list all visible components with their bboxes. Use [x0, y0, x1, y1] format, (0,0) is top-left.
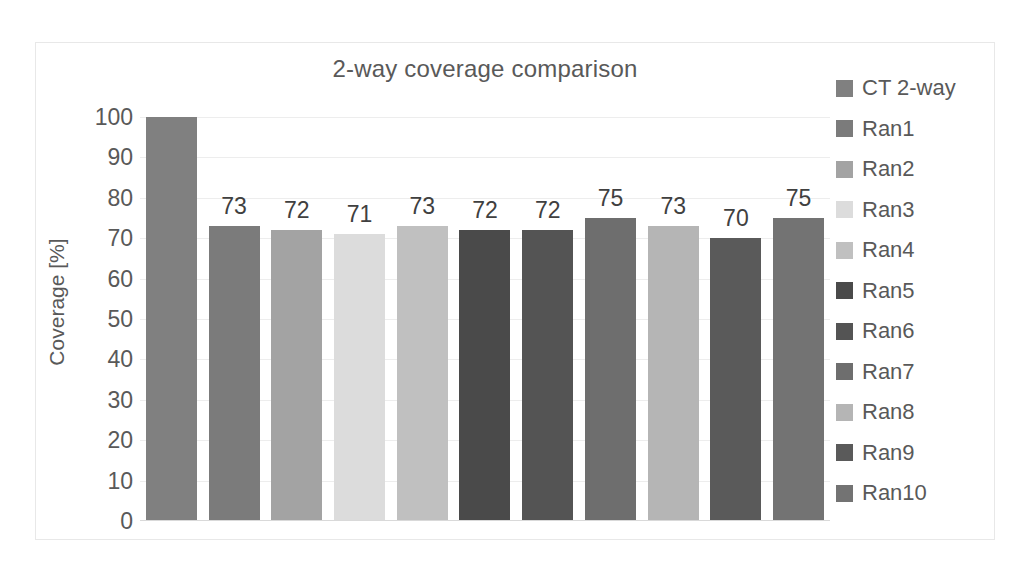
legend-swatch-icon	[836, 323, 853, 340]
bar-data-label: 75	[786, 187, 812, 210]
bar-data-label: 73	[409, 195, 435, 218]
y-axis-tick-label: 0	[63, 510, 133, 533]
legend-item[interactable]: Ran8	[836, 392, 986, 433]
legend-item[interactable]: Ran1	[836, 109, 986, 150]
y-axis-tick-label: 50	[63, 308, 133, 331]
bar-group: 73	[642, 117, 705, 521]
y-axis-tick-label: 20	[63, 429, 133, 452]
chart-title: 2-way coverage comparison	[160, 55, 810, 83]
bar-group	[140, 117, 203, 521]
bar-data-label: 72	[472, 199, 498, 222]
bar[interactable]	[271, 230, 322, 521]
bar-data-label: 73	[660, 195, 686, 218]
y-axis-tick-label: 80	[63, 186, 133, 209]
legend-swatch-icon	[836, 485, 853, 502]
legend-item[interactable]: Ran3	[836, 190, 986, 231]
legend-item-label: Ran1	[862, 118, 915, 140]
legend-item-label: Ran8	[862, 401, 915, 423]
legend-item[interactable]: Ran5	[836, 271, 986, 312]
bar-series: 73727173727275737075	[140, 117, 830, 521]
y-axis-tick-label: 70	[63, 227, 133, 250]
legend-item[interactable]: Ran6	[836, 311, 986, 352]
bar-group: 75	[579, 117, 642, 521]
chart-screenshot: 2-way coverage comparison Coverage [%] 1…	[0, 0, 1025, 577]
legend-item[interactable]: CT 2-way	[836, 68, 986, 109]
x-axis-line	[140, 520, 830, 521]
plot-area: 73727173727275737075	[140, 117, 830, 521]
bar-data-label: 70	[723, 207, 749, 230]
y-axis-tick-label: 10	[63, 469, 133, 492]
bar-group: 71	[328, 117, 391, 521]
legend-item-label: Ran4	[862, 239, 915, 261]
legend-item[interactable]: Ran2	[836, 149, 986, 190]
y-axis-tick-label: 60	[63, 267, 133, 290]
legend-item-label: Ran10	[862, 482, 927, 504]
legend-item-label: Ran9	[862, 442, 915, 464]
legend-item-label: Ran5	[862, 280, 915, 302]
legend-item[interactable]: Ran9	[836, 433, 986, 474]
bar-group: 73	[203, 117, 266, 521]
legend-swatch-icon	[836, 444, 853, 461]
legend-swatch-icon	[836, 120, 853, 137]
bar-data-label: 72	[535, 199, 561, 222]
bar[interactable]	[209, 226, 260, 521]
bar-group: 73	[391, 117, 454, 521]
y-axis-tick-label: 40	[63, 348, 133, 371]
bar[interactable]	[773, 218, 824, 521]
bar[interactable]	[459, 230, 510, 521]
bar-group: 72	[454, 117, 517, 521]
legend-swatch-icon	[836, 80, 853, 97]
legend-item[interactable]: Ran7	[836, 352, 986, 393]
y-axis-tick-labels: 1009080706050403020100	[55, 117, 133, 521]
legend-swatch-icon	[836, 363, 853, 380]
bar-group: 75	[767, 117, 830, 521]
bar-group: 72	[516, 117, 579, 521]
chart-legend: CT 2-wayRan1Ran2Ran3Ran4Ran5Ran6Ran7Ran8…	[836, 68, 986, 514]
y-axis-tick-label: 90	[63, 146, 133, 169]
bar[interactable]	[710, 238, 761, 521]
legend-item-label: Ran7	[862, 361, 915, 383]
legend-swatch-icon	[836, 201, 853, 218]
bar-data-label: 75	[598, 187, 624, 210]
bar[interactable]	[585, 218, 636, 521]
legend-item-label: CT 2-way	[862, 77, 956, 99]
legend-swatch-icon	[836, 282, 853, 299]
bar-group: 72	[265, 117, 328, 521]
bar[interactable]	[648, 226, 699, 521]
legend-item-label: Ran3	[862, 199, 915, 221]
legend-item-label: Ran2	[862, 158, 915, 180]
legend-swatch-icon	[836, 242, 853, 259]
bar[interactable]	[397, 226, 448, 521]
bar[interactable]	[334, 234, 385, 521]
bar[interactable]	[146, 117, 197, 521]
legend-swatch-icon	[836, 404, 853, 421]
bar-data-label: 71	[347, 203, 373, 226]
bar-group: 70	[705, 117, 768, 521]
legend-item-label: Ran6	[862, 320, 915, 342]
legend-item[interactable]: Ran10	[836, 473, 986, 514]
legend-swatch-icon	[836, 161, 853, 178]
y-axis-tick-label: 100	[63, 106, 133, 129]
bar-data-label: 73	[221, 195, 247, 218]
bar[interactable]	[522, 230, 573, 521]
y-axis-tick-label: 30	[63, 388, 133, 411]
bar-data-label: 72	[284, 199, 310, 222]
legend-item[interactable]: Ran4	[836, 230, 986, 271]
